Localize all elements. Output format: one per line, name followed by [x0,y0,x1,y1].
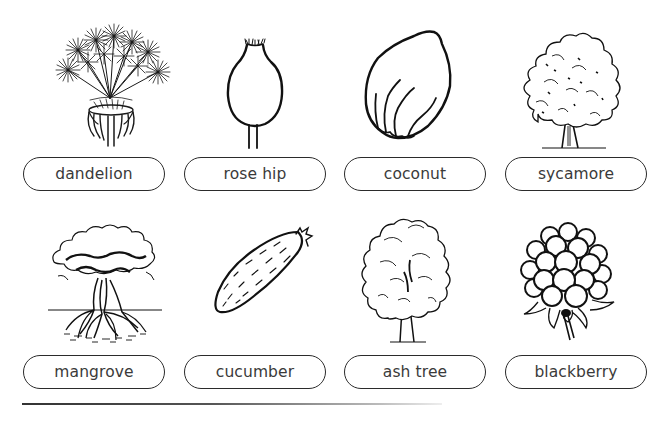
dandelion-icon [48,28,173,146]
sycamore-label[interactable]: sycamore [505,157,647,191]
rose-hip-icon [225,38,287,150]
mangrove-label[interactable]: mangrove [23,355,165,389]
sycamore-tree-icon [508,22,626,150]
ash-tree-label[interactable]: ash tree [344,355,486,389]
rose-hip-label[interactable]: rose hip [184,157,326,191]
ash-tree-icon [360,200,456,344]
dandelion-label[interactable]: dandelion [23,157,165,191]
mangrove-tree-icon [46,218,170,344]
blackberry-icon [520,218,620,342]
cucumber-icon [210,222,314,320]
coconut-label[interactable]: coconut [344,157,486,191]
cucumber-label[interactable]: cucumber [184,355,326,389]
blackberry-label[interactable]: blackberry [505,355,647,389]
bottom-divider [22,403,442,405]
coconut-icon [362,28,454,142]
